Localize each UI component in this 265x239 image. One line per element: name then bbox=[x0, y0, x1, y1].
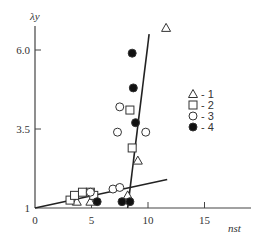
data-point-series-4 bbox=[126, 198, 134, 206]
scatter-chart: 05101513.56.0 λy nst - 1- 2- 3- 4 bbox=[0, 0, 265, 239]
data-point-series-1 bbox=[162, 23, 171, 31]
data-point-series-3 bbox=[142, 128, 150, 136]
data-point-series-4 bbox=[132, 119, 140, 127]
legend-marker-3 bbox=[189, 112, 197, 120]
x-axis-title: nst bbox=[228, 222, 242, 234]
data-point-series-4 bbox=[118, 198, 126, 206]
data-point-series-4 bbox=[129, 84, 137, 92]
data-point-series-4 bbox=[93, 198, 101, 206]
fit-lines bbox=[35, 34, 167, 208]
legend-marker-4 bbox=[189, 123, 197, 131]
data-point-series-2 bbox=[126, 106, 134, 114]
data-point-series-2 bbox=[78, 188, 86, 196]
data-point-series-3 bbox=[113, 128, 121, 136]
x-tick-label: 15 bbox=[199, 214, 211, 226]
y-tick-label: 6.0 bbox=[16, 44, 30, 56]
legend-marker-1 bbox=[189, 90, 198, 98]
x-tick-label: 10 bbox=[143, 214, 155, 226]
data-point-series-2 bbox=[128, 144, 136, 152]
legend: - 1- 2- 3- 4 bbox=[189, 88, 214, 133]
data-point-series-3 bbox=[116, 183, 124, 191]
data-point-series-3 bbox=[116, 103, 124, 111]
data-point-series-2 bbox=[71, 191, 79, 199]
axes bbox=[35, 26, 251, 208]
y-tick-label: 1 bbox=[25, 202, 31, 214]
x-tick-label: 0 bbox=[32, 214, 38, 226]
y-axis-title: λy bbox=[29, 10, 40, 22]
legend-label: - 4 bbox=[201, 121, 214, 133]
legend-marker-2 bbox=[189, 101, 197, 109]
data-point-series-4 bbox=[128, 49, 136, 57]
data-points bbox=[66, 23, 171, 205]
data-point-series-3 bbox=[86, 188, 94, 196]
x-tick-label: 5 bbox=[89, 214, 95, 226]
tick-labels: 05101513.56.0 bbox=[16, 44, 210, 226]
y-tick-label: 3.5 bbox=[16, 123, 30, 135]
